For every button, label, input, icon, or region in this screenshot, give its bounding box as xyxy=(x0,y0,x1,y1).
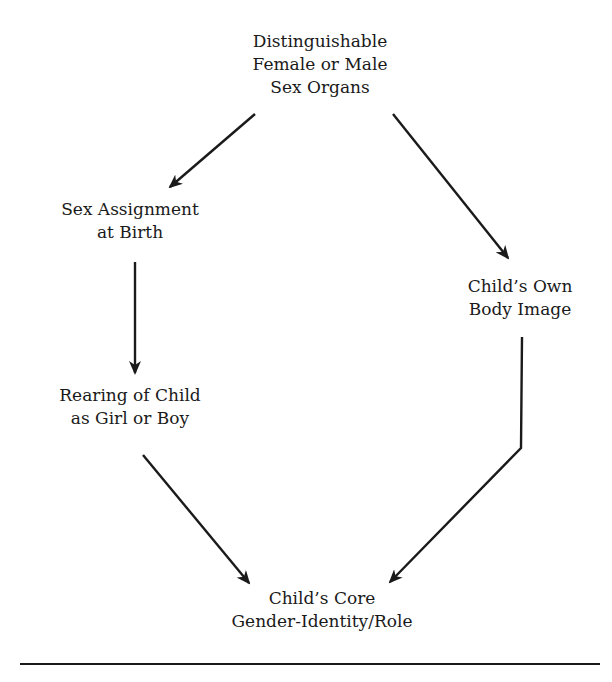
node-rearing-line-2: as Girl or Boy xyxy=(59,407,200,430)
node-core-identity-line-2: Gender-Identity/Role xyxy=(232,610,413,633)
node-rearing-line-1: Rearing of Child xyxy=(59,384,200,407)
node-body-image-line-2: Body Image xyxy=(468,298,573,321)
arrow-rearing-to-core xyxy=(143,455,249,583)
node-core-identity-line-1: Child’s Core xyxy=(232,587,413,610)
arrow-organs-to-body-image xyxy=(393,114,508,258)
node-sex-organs: Distinguishable Female or Male Sex Organ… xyxy=(253,30,388,99)
arrow-organs-to-assignment xyxy=(170,114,255,187)
arrow-body-image-to-core xyxy=(390,337,522,582)
gender-identity-diagram: Distinguishable Female or Male Sex Organ… xyxy=(0,0,612,682)
node-sex-organs-line-1: Distinguishable xyxy=(253,30,388,53)
node-sex-organs-line-3: Sex Organs xyxy=(253,76,388,99)
node-sex-assignment-line-1: Sex Assignment xyxy=(61,198,199,221)
node-sex-assignment-line-2: at Birth xyxy=(61,221,199,244)
node-body-image-line-1: Child’s Own xyxy=(468,275,573,298)
node-sex-assignment: Sex Assignment at Birth xyxy=(61,198,199,244)
node-body-image: Child’s Own Body Image xyxy=(468,275,573,321)
node-rearing: Rearing of Child as Girl or Boy xyxy=(59,384,200,430)
node-core-identity: Child’s Core Gender-Identity/Role xyxy=(232,587,413,633)
node-sex-organs-line-2: Female or Male xyxy=(253,53,388,76)
arrows-layer xyxy=(0,0,612,682)
bottom-rule-divider xyxy=(20,663,600,665)
